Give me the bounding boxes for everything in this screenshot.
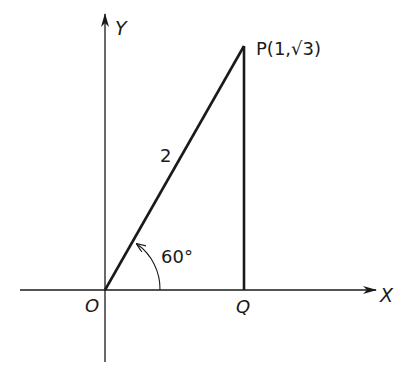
segment-length-label: 2	[160, 145, 171, 166]
point-p-label: P(1,√3)	[256, 38, 321, 59]
point-q-label: Q	[236, 296, 250, 317]
x-axis-label: X	[379, 284, 394, 306]
origin-label: O	[85, 295, 99, 316]
diagram-canvas: Y X O Q P(1,√3) 2 60°	[0, 0, 414, 374]
angle-arc	[137, 244, 160, 290]
y-axis-label: Y	[115, 17, 128, 39]
angle-label: 60°	[161, 246, 193, 267]
